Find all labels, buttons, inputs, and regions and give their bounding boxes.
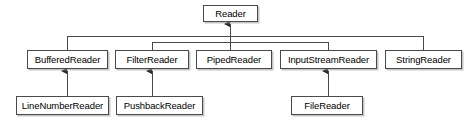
- class-diagram: Reader BufferedReader FilterReader Piped…: [0, 0, 476, 131]
- class-label-linenumberreader: LineNumberReader: [22, 101, 103, 111]
- class-label-pipedreader: PipedReader: [207, 55, 261, 65]
- class-label-reader: Reader: [215, 9, 246, 19]
- class-box-filereader[interactable]: FileReader: [291, 96, 363, 115]
- class-label-filereader: FileReader: [304, 101, 349, 111]
- class-label-inputstreamreader: InputStreamReader: [288, 55, 369, 65]
- class-box-linenumberreader[interactable]: LineNumberReader: [16, 96, 109, 115]
- class-label-pushbackreader: PushbackReader: [124, 101, 195, 111]
- class-label-filterreader: FilterReader: [126, 55, 177, 65]
- class-box-bufferedreader[interactable]: BufferedReader: [27, 50, 108, 69]
- class-label-stringreader: StringReader: [396, 55, 451, 65]
- class-box-pushbackreader[interactable]: PushbackReader: [116, 96, 203, 115]
- class-box-inputstreamreader[interactable]: InputStreamReader: [280, 50, 377, 69]
- class-box-filterreader[interactable]: FilterReader: [115, 50, 189, 69]
- class-box-stringreader[interactable]: StringReader: [385, 50, 462, 69]
- class-box-reader[interactable]: Reader: [203, 5, 258, 22]
- class-label-bufferedreader: BufferedReader: [35, 55, 101, 65]
- class-box-pipedreader[interactable]: PipedReader: [196, 50, 272, 69]
